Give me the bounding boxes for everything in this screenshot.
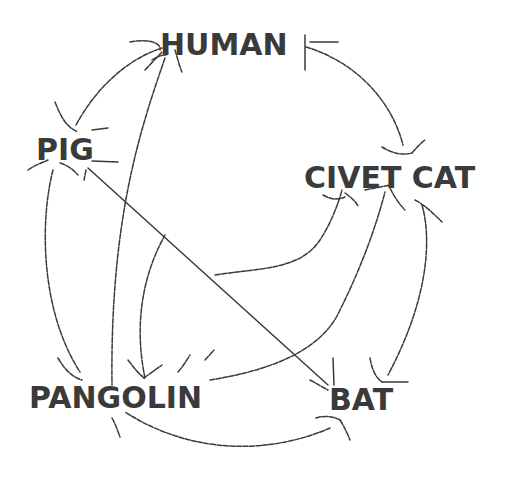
edge-pig-bat (84, 161, 328, 385)
edge-pangolin-civetcat (178, 185, 405, 380)
edge-pig-pangolin (28, 160, 82, 380)
edge-bat-pangolin (112, 412, 350, 446)
node-civet-cat: CIVET CAT (304, 163, 475, 193)
edge-civetcat-bat (370, 200, 442, 382)
edge-civetcat-pangolin-inner (215, 190, 358, 275)
node-pangolin: PANGOLIN (29, 383, 202, 413)
node-pig: PIG (36, 135, 94, 165)
edge-pangolin-human (112, 50, 182, 385)
transmission-diagram: HUMAN PIG CIVET CAT PANGOLIN BAT (0, 0, 506, 482)
edge-pangolin-middle (128, 235, 165, 378)
node-human: HUMAN (160, 30, 288, 60)
node-bat: BAT (329, 385, 393, 415)
edge-human-civetcat (305, 35, 425, 154)
